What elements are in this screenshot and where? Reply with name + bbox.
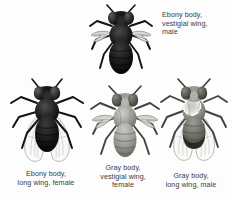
fly-gray-vestigial-female [88, 82, 162, 164]
fly-ebony-long-female [6, 76, 88, 168]
fruit-fly-phenotype-figure: Ebony body, vestigial wing, male [0, 0, 232, 200]
caption-ebony-long-female: Ebony body, long wing, female [0, 170, 92, 187]
fly-ebony-vestigial-male [84, 2, 158, 78]
vestigial-wing-left [92, 115, 114, 128]
vestigial-wing-right [136, 115, 158, 128]
caption-gray-long-male: Gray body, long wing, male [150, 172, 232, 189]
fly-gray-long-male [158, 76, 230, 166]
caption-ebony-vestigial-male: Ebony body, vestigial wing, male [162, 11, 230, 37]
